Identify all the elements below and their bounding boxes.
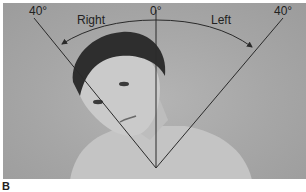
photograph bbox=[3, 3, 306, 179]
photo-illustration bbox=[3, 3, 306, 179]
panel-label: B bbox=[2, 180, 10, 192]
center-label: 0° bbox=[150, 5, 161, 17]
left-arc-arrow bbox=[156, 20, 252, 47]
right-limit-label: 40° bbox=[29, 5, 47, 17]
left-limit-label: 40° bbox=[274, 5, 292, 17]
left-direction-label: Left bbox=[211, 14, 231, 26]
right-eye bbox=[119, 82, 129, 86]
right-direction-label: Right bbox=[77, 14, 105, 26]
torso bbox=[70, 126, 252, 179]
